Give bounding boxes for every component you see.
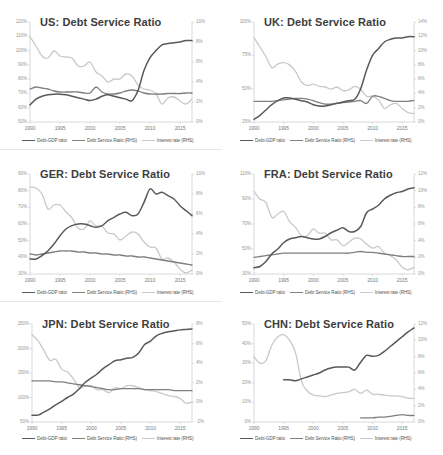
y-axis-left-tick: 50%: [0, 419, 29, 424]
y-axis-right-tick: 6%: [196, 341, 202, 346]
x-axis-tick: 1995: [50, 277, 70, 283]
y-axis-left-tick: 75%: [222, 52, 251, 57]
series-line-chn-0: [284, 328, 414, 381]
y-axis-right-tick: 8%: [196, 39, 202, 44]
legend-entry-3[interactable]: Interest rate (RHS): [142, 138, 194, 143]
chart-legend-fra: Debt-GDP ratioDebt Service Ratio (RHS)In…: [240, 290, 440, 295]
y-axis-left-tick: 80%: [0, 76, 27, 81]
legend-entry-2[interactable]: Debt Service Ratio (RHS): [290, 290, 355, 295]
x-axis-tick: 2015: [392, 125, 412, 131]
x-axis-tick: 2015: [170, 425, 190, 431]
legend-entry-1[interactable]: Debt-GDP ratio: [22, 290, 67, 295]
legend-label-3: Interest rate (RHS): [157, 138, 194, 143]
series-line-fra-1: [254, 252, 414, 258]
chart-panel-fra: FRA: Debt Service Ratio110%90%70%50%30%1…: [222, 152, 443, 304]
legend-swatch-icon-3: [360, 140, 373, 141]
legend-entry-1[interactable]: Debt-GDP ratio: [240, 436, 285, 441]
legend-label-2: Debt Service Ratio (RHS): [305, 290, 355, 295]
y-axis-left-tick: 0%: [222, 419, 251, 424]
x-axis-tick: 2000: [303, 125, 323, 131]
y-axis-right-tick: 10%: [418, 188, 427, 193]
y-axis-left-tick: 30%: [0, 271, 27, 276]
legend-label-1: Debt-GDP ratio: [255, 290, 285, 295]
x-axis-tick: 1995: [50, 125, 70, 131]
y-axis-right-tick: 4%: [196, 360, 202, 365]
y-axis-right-tick: 0%: [196, 119, 202, 124]
y-axis-right-tick: 0%: [196, 271, 202, 276]
plot-area-jpn: [0, 304, 222, 455]
y-axis-left-tick: 50%: [222, 321, 251, 326]
legend-entry-3[interactable]: Interest rate (RHS): [360, 138, 412, 143]
y-axis-right-tick: 2%: [196, 251, 202, 256]
legend-swatch-icon-1: [22, 438, 35, 440]
legend-entry-2[interactable]: Debt Service Ratio (RHS): [290, 436, 355, 441]
legend-label-1: Debt-GDP ratio: [37, 436, 67, 441]
y-axis-right-tick: 4%: [196, 79, 202, 84]
y-axis-right-tick: 2%: [418, 403, 424, 408]
x-axis-tick: 2000: [303, 425, 323, 431]
y-axis-left-tick: 100%: [0, 48, 27, 53]
x-axis-tick: 2005: [110, 277, 130, 283]
y-axis-right-tick: 0%: [418, 271, 424, 276]
legend-entry-3[interactable]: Interest rate (RHS): [142, 436, 194, 441]
series-line-chn-2: [254, 334, 414, 398]
x-axis-tick: 2015: [170, 125, 190, 131]
x-axis-tick: 2005: [333, 277, 353, 283]
y-axis-right-tick: 10%: [196, 171, 205, 176]
legend-entry-3[interactable]: Interest rate (RHS): [142, 290, 194, 295]
x-axis-tick: 1990: [22, 425, 42, 431]
y-axis-right-tick: 2%: [196, 99, 202, 104]
x-axis-tick: 1990: [244, 125, 264, 131]
legend-label-1: Debt-GDP ratio: [255, 436, 285, 441]
y-axis-left-tick: 50%: [222, 86, 251, 91]
legend-swatch-icon-1: [240, 140, 253, 142]
x-axis-tick: 2010: [141, 425, 161, 431]
legend-entry-2[interactable]: Debt Service Ratio (RHS): [72, 138, 137, 143]
legend-entry-1[interactable]: Debt-GDP ratio: [240, 138, 285, 143]
legend-label-3: Interest rate (RHS): [157, 436, 194, 441]
y-axis-left-tick: 60%: [0, 105, 27, 110]
y-axis-right-tick: 14%: [418, 19, 427, 24]
y-axis-right-tick: 8%: [418, 62, 424, 67]
x-axis-tick: 2005: [111, 425, 131, 431]
y-axis-left-tick: 120%: [0, 19, 27, 24]
panel-divider: [0, 149, 222, 150]
chart-panel-us: US: Debt Service Ratio120%110%100%90%80%…: [0, 0, 222, 152]
legend-entry-3[interactable]: Interest rate (RHS): [360, 436, 412, 441]
chart-legend-ger: Debt-GDP ratioDebt Service Ratio (RHS)In…: [22, 290, 222, 295]
y-axis-right-tick: 2%: [418, 105, 424, 110]
y-axis-right-tick: 0%: [418, 419, 424, 424]
legend-swatch-icon-2: [72, 140, 85, 141]
series-line-ger-0: [30, 189, 192, 259]
legend-entry-3[interactable]: Interest rate (RHS): [360, 290, 412, 295]
y-axis-left-tick: 50%: [222, 246, 251, 251]
legend-label-3: Interest rate (RHS): [375, 290, 412, 295]
legend-swatch-icon-3: [142, 140, 155, 141]
series-line-chn-1: [361, 415, 414, 418]
series-line-jpn-0: [32, 329, 192, 415]
y-axis-left-tick: 250%: [0, 321, 29, 326]
chart-panel-ger: GER: Debt Service Ratio90%80%70%60%50%40…: [0, 152, 222, 304]
x-axis-tick: 1990: [244, 277, 264, 283]
y-axis-right-tick: 12%: [418, 321, 427, 326]
y-axis-right-tick: 10%: [418, 48, 427, 53]
legend-label-3: Interest rate (RHS): [157, 290, 194, 295]
y-axis-left-tick: 90%: [0, 171, 27, 176]
x-axis-tick: 2010: [140, 125, 160, 131]
x-axis-tick: 2010: [363, 425, 383, 431]
legend-entry-2[interactable]: Debt Service Ratio (RHS): [72, 436, 137, 441]
y-axis-right-tick: 2%: [196, 380, 202, 385]
y-axis-left-tick: 30%: [222, 271, 251, 276]
y-axis-left-tick: 90%: [222, 196, 251, 201]
legend-swatch-icon-3: [360, 438, 373, 439]
y-axis-left-tick: 100%: [222, 19, 251, 24]
legend-entry-1[interactable]: Debt-GDP ratio: [22, 138, 67, 143]
y-axis-left-tick: 80%: [0, 188, 27, 193]
y-axis-right-tick: 12%: [418, 171, 427, 176]
legend-entry-1[interactable]: Debt-GDP ratio: [240, 290, 285, 295]
legend-entry-2[interactable]: Debt Service Ratio (RHS): [72, 290, 137, 295]
legend-entry-1[interactable]: Debt-GDP ratio: [22, 436, 67, 441]
legend-label-3: Interest rate (RHS): [375, 138, 412, 143]
legend-swatch-icon-1: [22, 140, 35, 142]
legend-entry-2[interactable]: Debt Service Ratio (RHS): [290, 138, 355, 143]
